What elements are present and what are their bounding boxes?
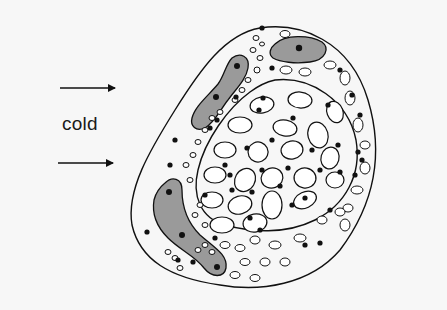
small-vacuole <box>190 153 196 158</box>
small-vacuole <box>250 48 256 53</box>
small-vacuole <box>209 250 215 255</box>
small-vacuole <box>280 31 290 38</box>
small-vacuole <box>250 275 260 282</box>
nucleus-dot <box>290 115 295 120</box>
small-vacuole <box>340 219 350 231</box>
small-vacuole <box>335 208 345 216</box>
cold-label: cold <box>62 113 98 135</box>
nucleus-dot <box>190 259 195 264</box>
nucleus-dot <box>244 145 249 150</box>
small-vacuole <box>245 78 251 83</box>
vacuole <box>245 139 271 165</box>
small-vacuole <box>177 266 183 271</box>
small-vacuole <box>192 213 198 218</box>
small-vacuole <box>209 116 215 121</box>
nucleus <box>214 264 220 270</box>
vacuole <box>204 167 226 183</box>
nucleus-dot <box>259 167 264 172</box>
small-vacuole <box>260 258 270 266</box>
nucleus-dot <box>207 125 212 130</box>
small-vacuole <box>250 236 260 244</box>
nucleus-dot <box>247 215 252 220</box>
nucleus-dot <box>257 227 262 232</box>
small-vacuole <box>360 162 370 174</box>
nucleus <box>213 94 219 100</box>
nucleus-dot <box>355 149 360 154</box>
nucleus <box>166 189 172 195</box>
small-vacuole <box>254 67 260 73</box>
nucleus-dot <box>317 167 322 172</box>
small-vacuole <box>360 141 370 149</box>
vacuole <box>326 172 344 188</box>
nucleus-dot <box>175 257 180 262</box>
vacuole <box>226 193 254 217</box>
small-vacuole <box>183 163 189 168</box>
small-vacuole <box>202 223 208 228</box>
nucleus-dot <box>302 242 307 247</box>
vacuole <box>280 139 305 161</box>
small-vacuole <box>257 56 263 61</box>
vacuole <box>305 120 331 150</box>
small-vacuole <box>269 241 281 249</box>
small-vacuole <box>353 118 363 132</box>
small-vacuole <box>195 140 201 145</box>
tissue-cross-section-diagram <box>0 0 447 310</box>
small-vacuole <box>217 110 223 115</box>
nucleus-dot <box>227 172 232 177</box>
vacuole <box>287 91 312 109</box>
small-vacuole <box>165 250 171 255</box>
small-vacuole <box>202 243 208 248</box>
vacuole <box>210 217 234 233</box>
small-vacuole <box>220 242 230 249</box>
small-vacuole <box>317 216 327 224</box>
nucleus-dot <box>289 202 294 207</box>
vacuole <box>230 165 259 196</box>
small-vacuole <box>240 259 250 266</box>
nucleus-dot <box>202 192 207 197</box>
small-vacuole <box>324 61 336 69</box>
nucleus-dot <box>302 195 307 200</box>
nucleus-dot <box>214 117 219 122</box>
diagram-stage: cold <box>0 0 447 310</box>
nucleus-dot <box>337 67 342 72</box>
nucleus-dot <box>349 92 354 97</box>
small-vacuole <box>280 258 290 266</box>
nucleus-dot <box>249 189 254 194</box>
nucleus-dot <box>309 147 314 152</box>
small-vacuole <box>340 71 350 85</box>
nucleus-dot <box>277 183 282 188</box>
small-vacuole <box>294 234 306 242</box>
nucleus-dot <box>172 137 177 142</box>
nucleus-dot <box>357 112 362 117</box>
nucleus-dot <box>233 94 238 99</box>
small-vacuole <box>351 186 363 194</box>
small-vacuole <box>230 272 240 279</box>
small-vacuole <box>260 42 265 46</box>
vacuole <box>214 142 236 158</box>
nucleus-dot <box>269 137 274 142</box>
small-vacuole <box>202 128 208 133</box>
nucleus-dot <box>352 172 357 177</box>
nucleus-dot <box>317 240 322 245</box>
nucleus-dot <box>285 165 290 170</box>
small-vacuole <box>280 66 292 74</box>
nucleus-dot <box>259 25 264 30</box>
nucleus-dot <box>256 107 261 112</box>
nucleus-dot <box>144 229 149 234</box>
nucleus-dot <box>327 207 332 212</box>
nucleus-dot <box>260 95 265 100</box>
nucleus <box>234 63 240 69</box>
vacuole <box>318 145 341 171</box>
nucleus-dot <box>212 235 217 240</box>
vacuole <box>292 166 317 190</box>
shaded-cell-top-nucleus <box>296 45 302 51</box>
nucleus-dot <box>337 169 342 174</box>
small-vacuole <box>195 248 201 253</box>
nucleus-dot <box>229 187 234 192</box>
small-vacuole <box>197 203 203 208</box>
nucleus-dot <box>269 65 274 70</box>
nucleus-dot <box>167 162 172 167</box>
small-vacuole <box>253 36 259 41</box>
nucleus-dot <box>359 157 364 162</box>
nucleus-dot <box>325 102 330 107</box>
